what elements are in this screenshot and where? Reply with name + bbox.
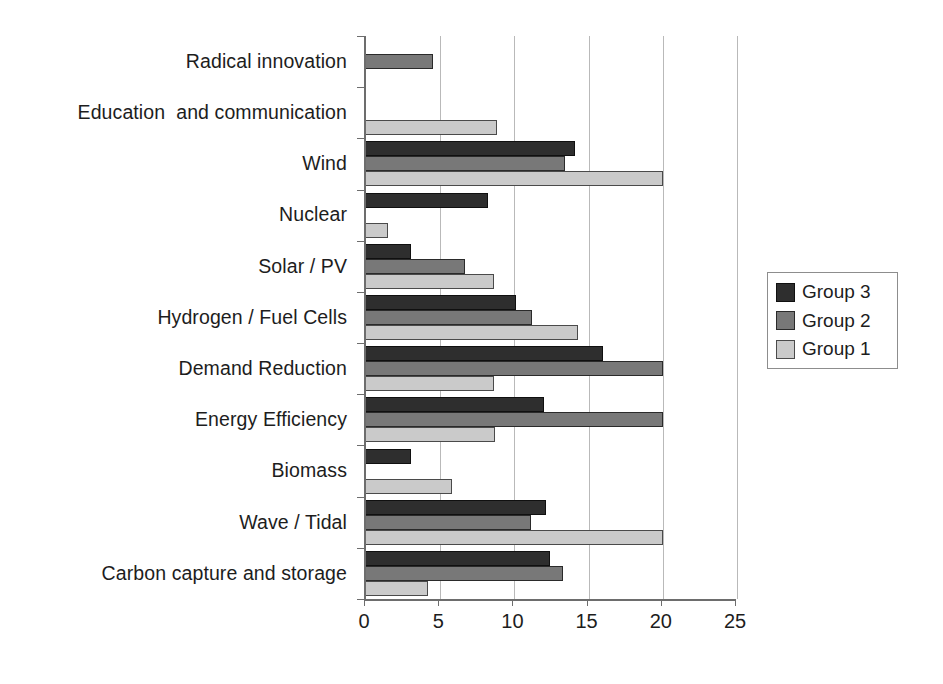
y-tick <box>357 241 365 242</box>
bar-row <box>366 310 737 325</box>
bar-group-1 <box>366 171 663 186</box>
y-tick <box>357 36 365 37</box>
bar-group-2 <box>366 54 433 69</box>
bar-group <box>366 36 737 87</box>
plot-area <box>364 36 737 599</box>
x-tick <box>512 599 513 606</box>
bar-row <box>366 397 737 412</box>
bar-group-2 <box>366 310 532 325</box>
bar-row <box>366 376 737 391</box>
y-tick <box>357 445 365 446</box>
bar-row <box>366 69 737 84</box>
x-tick-label: 10 <box>482 610 542 633</box>
x-tick <box>587 599 588 606</box>
gridline-25 <box>737 36 738 599</box>
bar-row <box>366 361 737 376</box>
bar-group-2 <box>366 566 563 581</box>
bar-group-3 <box>366 295 516 310</box>
horizontal-bar-chart: Radical innovationEducation and communic… <box>0 0 943 684</box>
bar-group <box>366 394 737 445</box>
bar-row <box>366 530 737 545</box>
legend-swatch-icon <box>776 340 795 359</box>
y-tick <box>357 394 365 395</box>
bar-group <box>366 446 737 497</box>
bar-group <box>366 548 737 599</box>
category-label: Energy Efficiency <box>0 394 356 445</box>
bar-groups <box>366 36 737 599</box>
bar-row <box>366 449 737 464</box>
y-tick <box>357 138 365 139</box>
bar-group <box>366 497 737 548</box>
legend-swatch-icon <box>776 311 795 330</box>
bar-group-1 <box>366 376 494 391</box>
bar-group <box>366 292 737 343</box>
bar-group <box>366 87 737 138</box>
legend-item[interactable]: Group 1 <box>776 336 889 362</box>
bar-group-1 <box>366 120 497 135</box>
bar-group-1 <box>366 274 494 289</box>
y-tick <box>357 599 365 600</box>
bar-group <box>366 190 737 241</box>
category-label: Radical innovation <box>0 36 356 87</box>
bar-group-2 <box>366 156 565 171</box>
legend-item[interactable]: Group 3 <box>776 279 889 305</box>
bar-group-3 <box>366 500 546 515</box>
category-label: Wave / Tidal <box>0 497 356 548</box>
y-tick <box>357 343 365 344</box>
bar-row <box>366 105 737 120</box>
bar-row <box>366 39 737 54</box>
bar-row <box>366 500 737 515</box>
bar-group-3 <box>366 346 603 361</box>
bar-row <box>366 412 737 427</box>
category-label: Nuclear <box>0 190 356 241</box>
bar-group-1 <box>366 479 452 494</box>
bar-group <box>366 241 737 292</box>
y-tick <box>357 190 365 191</box>
bar-row <box>366 581 737 596</box>
legend-swatch-icon <box>776 283 795 302</box>
bar-row <box>366 156 737 171</box>
bar-row <box>366 259 737 274</box>
legend-label: Group 1 <box>802 338 871 360</box>
category-label: Solar / PV <box>0 241 356 292</box>
category-axis-labels: Radical innovationEducation and communic… <box>0 36 356 599</box>
legend-item[interactable]: Group 2 <box>776 308 889 334</box>
bar-row <box>366 244 737 259</box>
bar-row <box>366 90 737 105</box>
bar-group <box>366 138 737 189</box>
x-tick-label: 5 <box>408 610 468 633</box>
x-tick-label: 0 <box>334 610 394 633</box>
bar-group-3 <box>366 141 575 156</box>
bar-row <box>366 120 737 135</box>
bar-row <box>366 171 737 186</box>
bar-row <box>366 274 737 289</box>
y-tick <box>357 548 365 549</box>
bar-row <box>366 295 737 310</box>
y-tick <box>357 497 365 498</box>
x-tick-label: 15 <box>557 610 617 633</box>
category-label: Hydrogen / Fuel Cells <box>0 292 356 343</box>
bar-group <box>366 343 737 394</box>
bar-group-2 <box>366 515 531 530</box>
category-label: Carbon capture and storage <box>0 548 356 599</box>
bar-row <box>366 223 737 238</box>
bar-group-3 <box>366 244 411 259</box>
bar-row <box>366 464 737 479</box>
x-tick <box>661 599 662 606</box>
bar-row <box>366 54 737 69</box>
bar-group-3 <box>366 193 488 208</box>
legend-label: Group 3 <box>802 281 871 303</box>
category-label: Wind <box>0 138 356 189</box>
y-tick <box>357 292 365 293</box>
y-tick <box>357 87 365 88</box>
legend: Group 3Group 2Group 1 <box>767 272 898 369</box>
x-tick <box>735 599 736 606</box>
x-axis-line <box>364 599 736 601</box>
category-label: Education and communication <box>0 87 356 138</box>
legend-label: Group 2 <box>802 310 871 332</box>
bar-row <box>366 515 737 530</box>
x-tick <box>364 599 365 606</box>
bar-group-1 <box>366 581 428 596</box>
bar-row <box>366 325 737 340</box>
bar-group-1 <box>366 325 578 340</box>
